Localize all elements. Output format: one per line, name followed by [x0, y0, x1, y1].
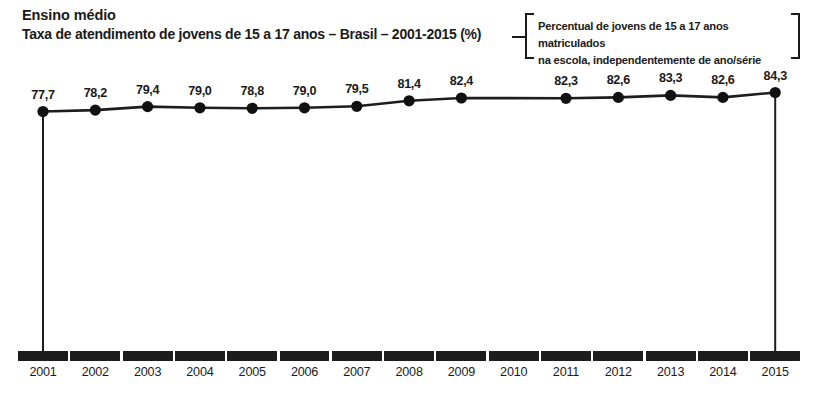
- data-point: [770, 87, 781, 98]
- data-point: [717, 92, 728, 103]
- data-point: [142, 101, 153, 112]
- x-axis-band: [18, 351, 800, 361]
- axis-segment: [436, 351, 486, 361]
- data-point: [560, 93, 571, 104]
- x-tick-label: 2014: [709, 365, 736, 379]
- axis-segment: [384, 351, 434, 361]
- axis-segment: [70, 351, 120, 361]
- data-label: 77,7: [31, 88, 54, 102]
- data-label: 82,6: [607, 73, 630, 87]
- data-label: 79,5: [345, 82, 368, 96]
- plot-area: 77,778,279,479,078,879,079,581,482,482,3…: [0, 0, 820, 395]
- axis-segment: [18, 351, 68, 361]
- data-label: 79,0: [188, 84, 211, 98]
- x-tick-label: 2002: [82, 365, 109, 379]
- data-point: [613, 92, 624, 103]
- data-label: 82,3: [554, 74, 577, 88]
- data-point: [404, 95, 415, 106]
- data-point: [299, 102, 310, 113]
- x-tick-label: 2004: [186, 365, 213, 379]
- drop-lines: [43, 93, 775, 361]
- axis-segment: [332, 351, 382, 361]
- data-point: [90, 105, 101, 116]
- data-label: 84,3: [764, 69, 787, 83]
- data-label: 81,4: [397, 77, 420, 91]
- data-point: [456, 92, 467, 103]
- data-point: [247, 103, 258, 114]
- axis-segment: [750, 351, 800, 361]
- x-tick-label: 2010: [500, 365, 527, 379]
- axis-segment: [280, 351, 330, 361]
- data-point: [37, 106, 48, 117]
- x-tick-label: 2007: [343, 365, 370, 379]
- axis-segment: [698, 351, 748, 361]
- axis-segment: [227, 351, 277, 361]
- x-tick-label: 2012: [605, 365, 632, 379]
- data-label: 82,6: [711, 73, 734, 87]
- data-point: [665, 90, 676, 101]
- chart-page: Ensino médio Taxa de atendimento de jove…: [0, 0, 820, 395]
- axis-segment: [489, 351, 539, 361]
- data-point: [194, 102, 205, 113]
- x-tick-label: 2003: [134, 365, 161, 379]
- data-point: [351, 101, 362, 112]
- data-label: 78,2: [84, 86, 107, 100]
- axis-segment: [123, 351, 173, 361]
- data-label: 78,8: [241, 84, 264, 98]
- data-label: 79,4: [136, 83, 159, 97]
- axis-segment: [175, 351, 225, 361]
- data-label: 83,3: [659, 71, 682, 85]
- x-tick-label: 2013: [657, 365, 684, 379]
- axis-segment: [593, 351, 643, 361]
- data-label: 82,4: [450, 74, 473, 88]
- x-tick-label: 2006: [291, 365, 318, 379]
- x-tick-label: 2001: [29, 365, 56, 379]
- data-label: 79,0: [293, 84, 316, 98]
- x-tick-label: 2005: [239, 365, 266, 379]
- x-tick-label: 2008: [395, 365, 422, 379]
- x-tick-label: 2011: [553, 365, 579, 379]
- x-tick-label: 2009: [448, 365, 475, 379]
- x-tick-label: 2015: [762, 365, 789, 379]
- axis-segment: [541, 351, 591, 361]
- axis-segment: [646, 351, 696, 361]
